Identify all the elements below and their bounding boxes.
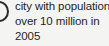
- legend-label-line-1: city with population: [15, 0, 109, 14]
- legend-symbol: [0, 0, 14, 26]
- circle-outline-marker-icon: [0, 1, 9, 22]
- legend-label-line-3: 2005: [15, 29, 109, 44]
- legend-label-line-2: over 10 million in: [15, 14, 109, 29]
- map-legend-entry: city with population over 10 million in …: [0, 0, 109, 46]
- legend-label: city with population over 10 million in …: [15, 0, 109, 44]
